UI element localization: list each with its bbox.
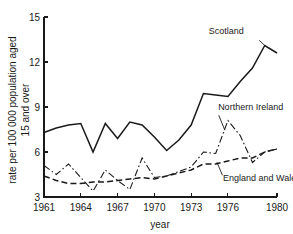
series-line-scotland <box>44 46 277 153</box>
annotation-leader-line <box>259 40 265 45</box>
x-tick-label: 1973 <box>180 202 203 213</box>
x-tick-label: 1970 <box>143 202 166 213</box>
x-tick-label: 1961 <box>33 202 56 213</box>
series-annotation-england-and-wales: England and Wales <box>223 173 293 183</box>
annotation-leader-line <box>219 115 225 130</box>
y-axis-title-line1: rate per 100 000 population aged <box>7 36 18 183</box>
y-axis-title-line2: 15 and over <box>20 83 31 136</box>
data-series <box>44 46 277 192</box>
y-axis-ticks: 3691215 <box>29 12 48 203</box>
series-annotations: ScotlandNorthern IrelandEngland and Wale… <box>209 26 293 183</box>
y-tick-label: 6 <box>34 147 40 158</box>
y-tick-label: 9 <box>34 102 40 113</box>
y-tick-label: 3 <box>34 192 40 203</box>
x-axis-title: year <box>150 219 170 230</box>
x-tick-label: 1967 <box>106 202 129 213</box>
series-annotation-scotland: Scotland <box>209 26 244 36</box>
y-tick-label: 12 <box>29 57 41 68</box>
series-annotation-northern-ireland: Northern Ireland <box>218 102 283 112</box>
x-tick-label: 1964 <box>70 202 93 213</box>
x-axis-ticks: 1961196419671970197319761980 <box>33 193 289 213</box>
line-chart: 3691215 1961196419671970197319761980 Sco… <box>0 0 293 234</box>
chart-container: 3691215 1961196419671970197319761980 Sco… <box>0 0 293 234</box>
x-tick-label: 1980 <box>266 202 289 213</box>
y-tick-label: 15 <box>29 12 41 23</box>
x-tick-label: 1976 <box>217 202 240 213</box>
annotation-leader-line <box>217 162 223 175</box>
